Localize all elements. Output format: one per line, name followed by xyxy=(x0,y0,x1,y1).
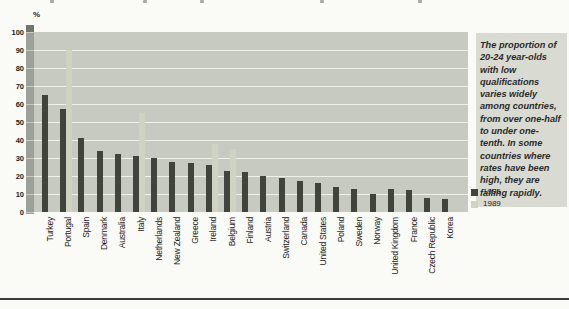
x-axis-label-czech-republic: Czech Republic xyxy=(427,217,438,297)
x-axis-label-korea: Korea xyxy=(445,217,456,297)
bar-1995-new-zealand xyxy=(169,162,175,212)
cropped-text-speck xyxy=(418,0,422,3)
x-axis-label-finland: Finland xyxy=(245,217,256,297)
x-axis-label-ireland: Ireland xyxy=(208,217,219,297)
y-axis-tick-label: 0 xyxy=(2,208,24,217)
y-axis-band-notch xyxy=(26,158,34,159)
cropped-text-speck xyxy=(320,0,324,3)
bar-1995-portugal xyxy=(60,109,66,212)
gridline xyxy=(34,140,468,141)
bar-1995-italy xyxy=(133,156,139,212)
x-axis-label-canada: Canada xyxy=(299,217,310,297)
x-axis-label-united-kingdom: United Kingdom xyxy=(390,217,401,297)
bar-1995-united-states xyxy=(315,183,321,212)
y-axis-band-cap xyxy=(26,25,34,32)
x-axis-label-spain: Spain xyxy=(81,217,92,297)
gridline xyxy=(34,122,468,123)
legend: 19951989 xyxy=(471,188,501,212)
bar-1995-spain xyxy=(78,138,84,212)
y-axis-unit-label: % xyxy=(33,10,40,19)
y-axis-band-notch xyxy=(26,50,34,51)
bar-1995-canada xyxy=(297,181,303,212)
bar-1989-portugal xyxy=(66,50,72,212)
plot-area xyxy=(34,32,468,212)
bar-1989-italy xyxy=(139,113,145,212)
y-axis-band-notch xyxy=(26,122,34,123)
y-axis-band-notch xyxy=(26,194,34,195)
legend-swatch-icon xyxy=(471,201,478,208)
x-axis-label-new-zealand: New Zealand xyxy=(172,217,183,297)
y-axis-tick-label: 60 xyxy=(2,100,24,109)
caption-panel: The proportion of 20-24 year-olds with l… xyxy=(476,33,567,207)
bar-1995-netherlands xyxy=(151,158,157,212)
y-axis-tick-label: 80 xyxy=(2,64,24,73)
y-axis-tick-label: 20 xyxy=(2,172,24,181)
bar-1995-ireland xyxy=(206,165,212,212)
x-axis-label-norway: Norway xyxy=(372,217,383,297)
legend-label: 1995 xyxy=(483,188,501,196)
y-axis-band-notch xyxy=(26,212,34,213)
legend-label: 1989 xyxy=(483,200,501,208)
y-axis-band-notch xyxy=(26,68,34,69)
caption-text: The proportion of 20-24 year-olds with l… xyxy=(480,40,561,198)
bar-1989-ireland xyxy=(212,144,218,212)
bottom-rule xyxy=(0,298,569,300)
y-axis-band-notch xyxy=(26,176,34,177)
bar-1995-finland xyxy=(242,172,248,212)
bar-1995-australia xyxy=(115,154,121,212)
bar-1995-poland xyxy=(333,187,339,212)
bar-1995-czech-republic xyxy=(424,198,430,212)
y-axis-tick-label: 10 xyxy=(2,190,24,199)
bar-1995-norway xyxy=(370,194,376,212)
x-axis-label-poland: Poland xyxy=(336,217,347,297)
x-axis-label-netherlands: Netherlands xyxy=(154,217,165,297)
y-axis-band-notch xyxy=(26,104,34,105)
x-axis-label-belgium: Belgium xyxy=(227,217,238,297)
y-axis-tick-label: 40 xyxy=(2,136,24,145)
y-axis-tick-label: 90 xyxy=(2,46,24,55)
bar-1995-turkey xyxy=(42,95,48,212)
bar-1989-belgium xyxy=(230,149,236,212)
x-axis-label-sweden: Sweden xyxy=(354,217,365,297)
x-axis-label-austria: Austria xyxy=(263,217,274,297)
y-axis-tick-label: 70 xyxy=(2,82,24,91)
x-axis-label-greece: Greece xyxy=(190,217,201,297)
legend-entry-1995: 1995 xyxy=(471,188,501,196)
x-axis-label-australia: Australia xyxy=(117,217,128,297)
y-axis-band-notch xyxy=(26,86,34,87)
x-axis-label-united-states: United States xyxy=(318,217,329,297)
cropped-text-speck xyxy=(50,0,54,3)
y-axis-tick-label: 50 xyxy=(2,118,24,127)
legend-entry-1989: 1989 xyxy=(471,200,501,208)
legend-swatch-icon xyxy=(471,189,478,196)
gridline xyxy=(34,50,468,51)
bar-1995-switzerland xyxy=(279,178,285,212)
y-axis-band-notch xyxy=(26,32,34,33)
figure-low-qualifications-chart: % 0102030405060708090100 TurkeyPortugalS… xyxy=(0,0,569,309)
bar-1995-united-kingdom xyxy=(388,189,394,212)
x-axis-label-turkey: Turkey xyxy=(45,217,56,297)
gridline xyxy=(34,68,468,69)
bar-1995-greece xyxy=(188,163,194,212)
bar-1995-denmark xyxy=(97,151,103,212)
gridline xyxy=(34,86,468,87)
y-axis-band xyxy=(26,25,34,214)
bar-1995-korea xyxy=(442,199,448,212)
x-axis-label-portugal: Portugal xyxy=(63,217,74,297)
gridline xyxy=(34,104,468,105)
bar-1995-france xyxy=(406,190,412,212)
x-axis-label-switzerland: Switzerland xyxy=(281,217,292,297)
x-axis-label-denmark: Denmark xyxy=(99,217,110,297)
y-axis-band-notch xyxy=(26,140,34,141)
x-axis-label-france: France xyxy=(409,217,420,297)
y-axis-tick-label: 100 xyxy=(2,28,24,37)
x-axis-label-italy: Italy xyxy=(136,217,147,297)
bar-1995-sweden xyxy=(351,189,357,212)
cropped-text-speck xyxy=(200,0,204,3)
cropped-text-speck xyxy=(143,0,147,3)
y-axis-tick-label: 30 xyxy=(2,154,24,163)
bar-1995-austria xyxy=(260,176,266,212)
bar-1995-belgium xyxy=(224,171,230,212)
